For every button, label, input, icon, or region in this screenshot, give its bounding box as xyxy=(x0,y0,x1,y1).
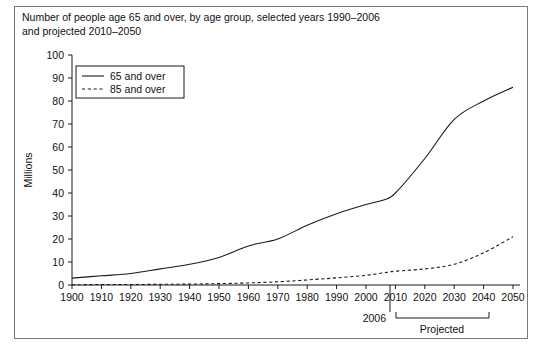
x-tick-label: 2040 xyxy=(472,291,496,303)
y-axis-title: Millions xyxy=(22,152,34,187)
legend-label-65-and-over: 65 and over xyxy=(110,70,166,82)
x-tick-label: 1920 xyxy=(119,291,143,303)
y-tick-label: 0 xyxy=(58,279,64,291)
projected-label: Projected xyxy=(420,323,465,335)
y-tick-label: 90 xyxy=(52,72,64,84)
chart-svg: 0102030405060708090100 19001910192019301… xyxy=(0,0,543,353)
divider-2006-label: 2006 xyxy=(363,312,387,324)
projected-bracket xyxy=(396,312,489,318)
y-tick-group: 0102030405060708090100 xyxy=(46,49,72,291)
x-tick-label: 1960 xyxy=(237,291,261,303)
series-line-65-and-over xyxy=(72,87,513,278)
x-tick-label: 1980 xyxy=(296,291,320,303)
y-tick-label: 50 xyxy=(52,164,64,176)
x-tick-label: 1900 xyxy=(60,291,84,303)
series-line-85-and-over xyxy=(72,237,513,285)
y-tick-label: 70 xyxy=(52,118,64,130)
legend: 65 and over 85 and over xyxy=(76,66,184,98)
legend-label-85-and-over: 85 and over xyxy=(110,83,166,95)
x-tick-label: 2030 xyxy=(443,291,467,303)
x-tick-label: 1990 xyxy=(325,291,349,303)
figure-root: Number of people age 65 and over, by age… xyxy=(0,0,543,353)
x-tick-group: 1900191019201930194019501960197019801990… xyxy=(60,285,525,303)
x-tick-label: 2020 xyxy=(413,291,437,303)
y-tick-label: 80 xyxy=(52,95,64,107)
x-tick-label: 2010 xyxy=(384,291,408,303)
x-tick-label: 1950 xyxy=(207,291,231,303)
y-tick-label: 10 xyxy=(52,256,64,268)
x-tick-label: 1970 xyxy=(266,291,290,303)
x-tick-label: 1940 xyxy=(178,291,202,303)
y-tick-label: 20 xyxy=(52,233,64,245)
projected-bracket-group: Projected xyxy=(396,312,489,335)
x-tick-label: 2050 xyxy=(501,291,525,303)
x-tick-label: 1930 xyxy=(149,291,173,303)
y-tick-label: 40 xyxy=(52,187,64,199)
y-tick-label: 30 xyxy=(52,210,64,222)
plot-area: 0102030405060708090100 19001910192019301… xyxy=(0,0,543,353)
y-tick-label: 100 xyxy=(46,49,64,61)
y-tick-label: 60 xyxy=(52,141,64,153)
x-tick-label: 1910 xyxy=(90,291,114,303)
x-tick-label: 2000 xyxy=(354,291,378,303)
